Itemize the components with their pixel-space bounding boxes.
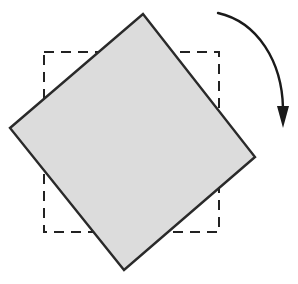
rotation-diagram (0, 0, 298, 284)
figure-container (0, 0, 298, 284)
